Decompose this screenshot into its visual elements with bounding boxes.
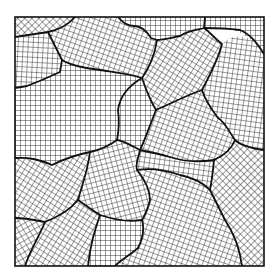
grains bbox=[15, 17, 264, 266]
grain-diagram bbox=[0, 0, 280, 279]
grain-structure-figure bbox=[0, 0, 280, 279]
